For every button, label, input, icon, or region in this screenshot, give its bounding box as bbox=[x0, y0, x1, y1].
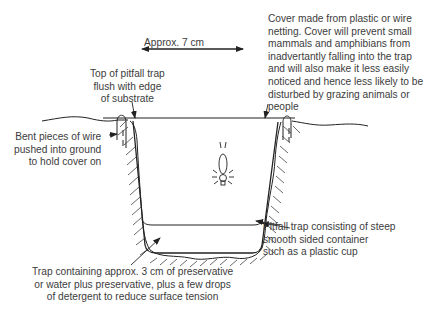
top-of-trap-label: Top of pitfall trap flush with edge of s… bbox=[90, 68, 165, 106]
ground-surface-right bbox=[292, 121, 368, 126]
container-label: Pitfall trap consisting of steep smooth … bbox=[263, 221, 396, 259]
wire-label: Bent pieces of wire pushed into ground t… bbox=[14, 131, 101, 169]
liquid-surface bbox=[142, 219, 263, 225]
cup-container bbox=[133, 121, 278, 253]
hole-outline bbox=[130, 121, 281, 259]
width-dimension-label: Approx. 7 cm bbox=[144, 37, 204, 50]
ground-surface-left bbox=[42, 117, 128, 121]
wire-right bbox=[283, 116, 291, 140]
cover-label: Cover made from plastic or wire netting.… bbox=[268, 13, 423, 114]
pitfall-trap-diagram: Approx. 7 cm Top of pitfall trap flush w… bbox=[0, 0, 437, 316]
beetle-insect bbox=[212, 142, 234, 185]
preservative-label: Trap containing approx. 3 cm of preserva… bbox=[32, 266, 233, 304]
